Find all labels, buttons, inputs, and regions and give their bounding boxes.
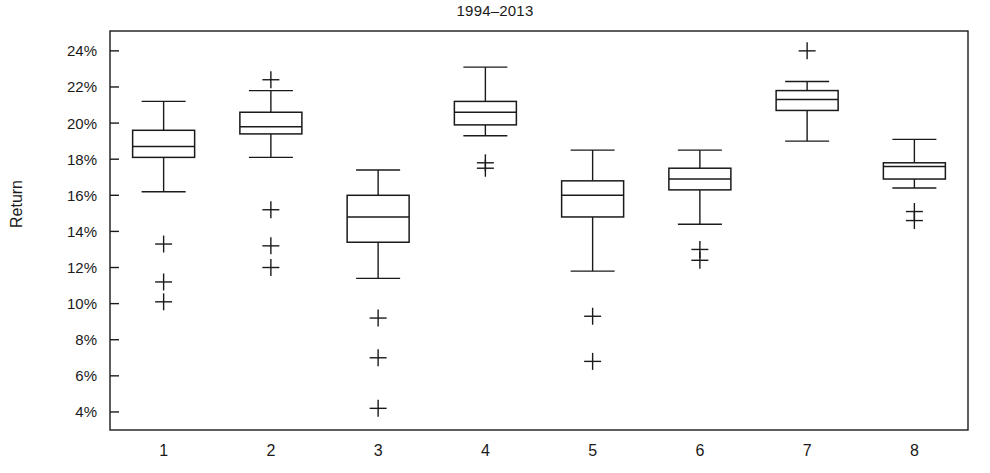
box-iqr: [562, 181, 624, 217]
x-tick-label: 6: [695, 442, 704, 459]
y-tick-label: 22%: [67, 78, 97, 95]
y-tick-label: 8%: [75, 331, 97, 348]
x-tick-label: 5: [588, 442, 597, 459]
axis-frame: [110, 31, 968, 430]
x-tick-label: 8: [910, 442, 919, 459]
y-tick-label: 24%: [67, 42, 97, 59]
boxplot-8: [883, 139, 945, 229]
x-tick-label: 4: [481, 442, 490, 459]
x-tick-group: 12345678: [159, 442, 919, 459]
y-tick-label: 20%: [67, 115, 97, 132]
y-tick-label: 14%: [67, 223, 97, 240]
box-iqr: [454, 101, 516, 124]
boxplot-3: [347, 170, 409, 417]
box-iqr: [883, 163, 945, 179]
y-tick-label: 16%: [67, 187, 97, 204]
x-tick-label: 3: [374, 442, 383, 459]
x-tick-label: 7: [803, 442, 812, 459]
box-iqr: [347, 195, 409, 242]
boxplot-figure: 1994–2013 Return 4%6%8%10%12%14%16%18%20…: [0, 0, 990, 473]
boxplot-1: [133, 101, 195, 310]
axis-group: [110, 31, 968, 430]
boxplot-5: [562, 150, 624, 370]
box-iqr: [133, 130, 195, 157]
x-tick-label: 2: [266, 442, 275, 459]
y-tick-label: 18%: [67, 151, 97, 168]
y-tick-label: 10%: [67, 295, 97, 312]
y-tick-label: 12%: [67, 259, 97, 276]
y-tick-label: 6%: [75, 367, 97, 384]
y-tick-label: 4%: [75, 403, 97, 420]
plot-area: 4%6%8%10%12%14%16%18%20%22%24% 12345678: [0, 0, 990, 473]
boxplot-4: [454, 67, 516, 177]
x-tick-label: 1: [159, 442, 168, 459]
boxplot-6: [669, 150, 731, 269]
y-tick-group: 4%6%8%10%12%14%16%18%20%22%24%: [67, 42, 119, 420]
boxplot-7: [776, 42, 838, 141]
box-iqr: [240, 112, 302, 134]
box-group: [133, 42, 946, 416]
boxplot-2: [240, 71, 302, 276]
box-iqr: [776, 91, 838, 111]
